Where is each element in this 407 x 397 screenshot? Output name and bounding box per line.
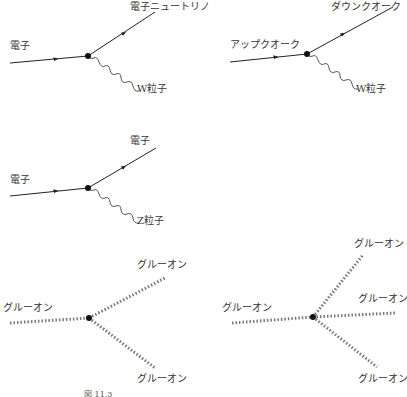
feynman-diagram-quark-w: アップクオーク ダウンクオーク W粒子 [230, 0, 401, 94]
feynman-diagram-electron-z: 電子 電子 Z粒子 [10, 135, 164, 226]
neutrino-out-line [88, 12, 155, 56]
z-boson-wavy-line [88, 188, 139, 223]
figure-caption: 図 11.3 [84, 390, 112, 397]
label-gluon-in: グルーオン [222, 301, 272, 313]
label-down-quark: ダウンクオーク [331, 0, 401, 12]
electron-in-line [10, 56, 88, 63]
feynman-diagram-electron-w: 電子 電子ニュートリノ W粒子 [10, 1, 210, 94]
label-up-quark: アップクオーク [230, 39, 300, 50]
label-gluon-lower: グルーオン [137, 372, 187, 384]
label-electron-out: 電子 [130, 135, 150, 146]
label-electron-in: 電子 [10, 40, 30, 51]
w-boson-wavy-line [88, 56, 139, 91]
vertex-dot [85, 185, 91, 191]
label-gluon-upper: グルーオン [137, 258, 187, 270]
vertex-dot [304, 51, 310, 57]
gluon-out-lower-line [89, 318, 155, 368]
label-electron-neutrino: 電子ニュートリノ [130, 1, 210, 12]
label-electron-in: 電子 [10, 174, 30, 185]
gluon-in-line [10, 318, 89, 323]
label-gluon-upper: グルーオン [354, 237, 404, 249]
label-w-boson: W粒子 [356, 82, 386, 94]
vertex-dot [310, 314, 316, 320]
w-boson-wavy-line [307, 54, 358, 89]
feynman-diagram-four-gluon: グルーオン グルーオン グルーオン グルーオン [222, 237, 407, 384]
feynman-diagram-three-gluon: グルーオン グルーオン グルーオン [3, 258, 187, 384]
label-w-boson: W粒子 [137, 82, 167, 94]
label-gluon-middle: グルーオン [358, 292, 407, 304]
label-gluon-in: グルーオン [3, 301, 53, 313]
vertex-dot [85, 53, 91, 59]
vertex-dot [86, 315, 92, 321]
label-z-boson: Z粒子 [137, 214, 164, 226]
gluon-out-upper-line [89, 278, 165, 318]
label-gluon-lower: グルーオン [358, 372, 407, 384]
